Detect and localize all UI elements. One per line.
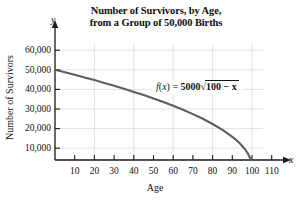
x-axis-tick-labels: 10 20 30 40 50 60 70 80 90 100 110 [0, 0, 298, 204]
chart-figure: Number of Survivors, by Age, from a Grou… [0, 0, 298, 204]
equation-paren-close: ) [167, 81, 170, 92]
x-axis-label: Age [125, 182, 185, 193]
x-axis-variable-name: x [289, 154, 293, 165]
equation-equals: = [172, 81, 178, 92]
y-axis-label: Number of Survivors [4, 38, 15, 158]
equation-radicand: 100 − x [205, 80, 239, 92]
y-axis-variable-name: y [51, 14, 55, 25]
equation-coefficient: 5000 [181, 81, 201, 92]
xtick-label-110: 110 [260, 166, 284, 176]
equation-annotation: f(x) = 5000√100 − x [152, 80, 243, 94]
